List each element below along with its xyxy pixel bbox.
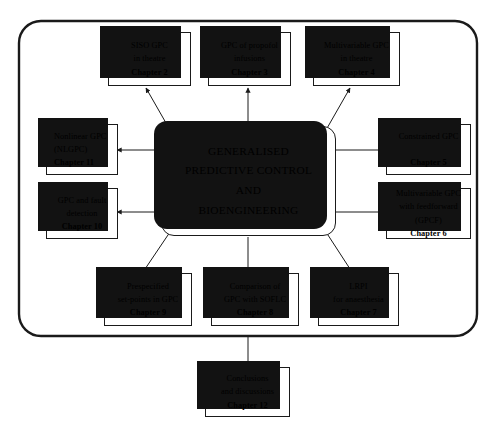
edge-center-to-chapter-4 (326, 88, 350, 130)
edge-center-to-chapter-7 (326, 232, 352, 272)
edge-center-to-chapter-9 (143, 232, 170, 272)
node-chapter-11-chapter: Chapter 11 (54, 156, 94, 169)
node-chapter-12[interactable]: Conclusions and discussions Chapter 12 (205, 367, 290, 417)
node-chapter-8-line-2: GPC with SOFLC (224, 293, 286, 306)
central-node-line-4: BIOENGINEERING (199, 201, 299, 221)
node-chapter-8[interactable]: Comparison of GPC with SOFLC Chapter 8 (211, 273, 299, 326)
node-chapter-9[interactable]: Prespecified set-points in GPC Chapter 9 (104, 273, 192, 326)
node-chapter-2-line-2: in theatre (134, 52, 166, 65)
node-chapter-5-line-2 (427, 143, 429, 156)
node-chapter-4-line-1: Multivariable GPC (324, 39, 389, 52)
node-chapter-7-line-1: LRPI (349, 280, 367, 293)
node-chapter-11[interactable]: Nonlinear GPC (NLGPC) Chapter 11 (46, 124, 118, 175)
node-chapter-9-line-2: set-points in GPC (118, 293, 178, 306)
node-chapter-3-line-1: GPC of propofol (221, 39, 278, 52)
node-chapter-6-chapter: Chapter 6 (410, 227, 446, 240)
node-chapter-4-line-2: in theatre (341, 52, 373, 65)
node-chapter-12-line-1: Conclusions (227, 372, 269, 385)
node-chapter-6-line-2: with feedforward (399, 200, 458, 213)
node-chapter-2[interactable]: SISO GPC in theatre Chapter 2 (108, 32, 191, 86)
node-chapter-3-chapter: Chapter 3 (231, 66, 267, 79)
node-chapter-9-line-1: Prespecified (127, 280, 169, 293)
central-node-generalised-predictive-control[interactable]: GENERALISED PREDICTIVE CONTROL AND BIOEN… (161, 126, 336, 236)
node-chapter-2-line-1: SISO GPC (131, 39, 168, 52)
central-node-line-3: AND (236, 181, 261, 201)
node-chapter-7[interactable]: LRPI for anaesthesia Chapter 7 (318, 273, 399, 326)
node-chapter-6[interactable]: Multivariable GPC with feedforward (GPCF… (386, 188, 471, 239)
node-chapter-6-line-1: Multivariable GPC (396, 187, 461, 200)
node-chapter-5-line-1: Constrained GPC (399, 130, 459, 143)
node-chapter-10-chapter: Chapter 10 (62, 220, 103, 233)
node-chapter-8-line-1: Comparison of (230, 280, 281, 293)
central-node-line-2: PREDICTIVE CONTROL (185, 161, 312, 181)
node-chapter-10-line-2: detection (66, 207, 97, 220)
central-node-line-1: GENERALISED (208, 142, 289, 162)
node-chapter-7-chapter: Chapter 7 (340, 306, 376, 319)
node-chapter-3-line-2: infusions (234, 52, 265, 65)
node-chapter-3[interactable]: GPC of propofol infusions Chapter 3 (208, 32, 291, 86)
node-chapter-7-line-2: for anaesthesia (333, 293, 384, 306)
node-chapter-6-line-3: (GPCF) (415, 214, 442, 227)
node-chapter-10[interactable]: GPC and fault detection Chapter 10 (46, 188, 118, 239)
node-chapter-4[interactable]: Multivariable GPC in theatre Chapter 4 (313, 32, 400, 86)
node-chapter-9-chapter: Chapter 9 (130, 306, 166, 319)
node-chapter-10-line-1: GPC and fault (58, 194, 107, 207)
node-chapter-5[interactable]: Constrained GPC Chapter 5 (386, 124, 471, 175)
node-chapter-8-chapter: Chapter 8 (237, 306, 273, 319)
node-chapter-4-chapter: Chapter 4 (338, 66, 374, 79)
node-chapter-5-chapter: Chapter 5 (410, 156, 446, 169)
node-chapter-2-chapter: Chapter 2 (131, 66, 167, 79)
node-chapter-12-line-2: and discussions (221, 385, 274, 398)
node-chapter-12-chapter: Chapter 12 (227, 399, 268, 412)
node-chapter-11-line-2: (NLGPC) (54, 143, 87, 156)
diagram-canvas: GENERALISED PREDICTIVE CONTROL AND BIOEN… (0, 0, 497, 433)
node-chapter-11-line-1: Nonlinear GPC (54, 130, 106, 143)
